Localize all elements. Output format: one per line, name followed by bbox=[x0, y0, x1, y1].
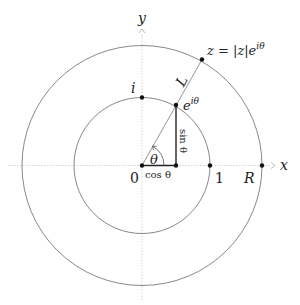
y-axis-arrow-icon bbox=[139, 29, 145, 33]
R-point bbox=[260, 163, 264, 167]
cos-theta-label: cos θ bbox=[145, 169, 171, 180]
i-point bbox=[140, 95, 144, 99]
y-axis-label: y bbox=[137, 10, 147, 26]
origin-label: 0 bbox=[130, 170, 139, 186]
z-point bbox=[200, 57, 204, 61]
L-label: L bbox=[172, 73, 191, 90]
theta-label: θ bbox=[150, 152, 158, 167]
x-axis-arrow-icon bbox=[271, 163, 275, 169]
i-label: i bbox=[131, 80, 135, 96]
sin-theta-label: sin θ bbox=[178, 129, 189, 153]
e-i-theta-point bbox=[174, 103, 178, 107]
e-i-theta-label: eiθ bbox=[183, 96, 200, 113]
R-label: R bbox=[243, 170, 255, 186]
one-point bbox=[208, 163, 212, 167]
origin-point bbox=[140, 163, 144, 167]
complex-plane-diagram: x y 0 1 R i eiθ z = |z|eiθ L cos θ sin θ… bbox=[0, 0, 300, 305]
radial-line bbox=[142, 60, 202, 166]
cos-theta-point bbox=[174, 163, 178, 167]
one-label: 1 bbox=[215, 170, 224, 186]
x-axis-label: x bbox=[280, 157, 288, 173]
z-label: z = |z|eiθ bbox=[206, 41, 265, 58]
